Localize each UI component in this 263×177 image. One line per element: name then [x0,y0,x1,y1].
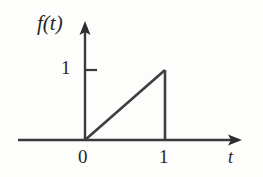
function-graph-figure: f(t) t 1 0 1 [0,0,263,177]
y-tick-label-1: 1 [61,58,71,77]
y-axis-label: f(t) [37,13,63,34]
x-tick-label-0: 0 [78,147,88,166]
ramp-segment [85,70,165,140]
x-axis-label: t [228,148,233,166]
x-tick-label-1: 1 [159,147,169,166]
